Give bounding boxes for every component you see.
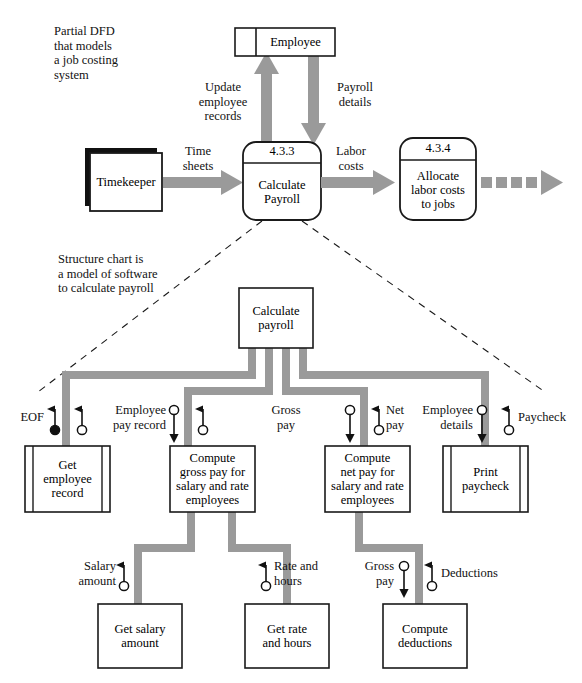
process-434-number: 4.3.4	[400, 142, 476, 155]
external-entity-timekeeper-shape	[85, 148, 162, 211]
flow-label-update-employee-records: Update employee records	[186, 80, 260, 124]
couple-label-eof: EOF	[8, 410, 44, 425]
couple-net-pay-up	[374, 409, 383, 435]
module-print-paycheck-shape	[443, 446, 528, 512]
couple-label-deductions: Deductions	[441, 566, 521, 581]
diagram-canvas: Partial DFD that models a job costing sy…	[0, 0, 582, 683]
module-compute-gross-pay-shape	[170, 446, 255, 512]
process-433-number: 4.3.3	[243, 145, 321, 158]
module-get-employee-record-shape	[25, 446, 110, 512]
module-compute-deductions-shape	[383, 604, 467, 668]
couple-label-paycheck: Paycheck	[518, 410, 580, 425]
couple-gross-pay-down	[345, 405, 354, 443]
couple-label-gross-pay-lower: Gross pay	[336, 559, 394, 588]
couple-employee-pay-record	[169, 405, 178, 443]
couple-eof	[50, 409, 59, 435]
module-compute-net-pay-shape	[325, 446, 410, 512]
flow-label-payroll-details: Payroll details	[322, 80, 388, 109]
couple-gross-pay-down-lower	[399, 561, 408, 598]
couple-paycheck-up	[504, 409, 513, 435]
couple-deductions-up	[427, 565, 436, 591]
couple-label-gross-pay: Gross pay	[258, 403, 314, 432]
flow-label-labor-costs: Labor costs	[325, 144, 377, 173]
couple-label-employee-details: Employee details	[401, 403, 473, 432]
couple-label-rate-and-hours: Rate and hours	[274, 559, 344, 588]
flow-labor-costs	[321, 170, 395, 195]
dfd-note: Partial DFD that models a job costing sy…	[54, 24, 174, 82]
module-get-rate-and-hours-shape	[245, 604, 329, 668]
couple-salary-amount-up	[119, 565, 128, 591]
module-get-salary-amount-shape	[98, 604, 182, 668]
flow-time-sheets	[163, 170, 243, 195]
flow-dashed-continuation	[481, 170, 563, 195]
flow-label-time-sheets: Time sheets	[169, 144, 227, 173]
couple-employee-record-return	[77, 409, 86, 435]
datastore-employee-shape	[235, 28, 335, 56]
couple-rate-and-hours-up	[261, 565, 270, 591]
couple-label-salary-amount: Salary amount	[54, 559, 116, 588]
structure-chart-note: Structure chart is a model of software t…	[58, 252, 238, 296]
couple-label-employee-pay-record: Employee pay record	[94, 403, 166, 432]
couple-gross-branch-return	[198, 409, 207, 435]
module-root-shape	[239, 288, 313, 348]
